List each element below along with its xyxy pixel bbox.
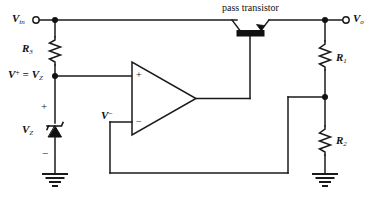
wire-transistor-collector [232, 20, 240, 31]
zener-plus-sign: + [41, 101, 47, 112]
circuit-diagram: Vin Vo R3 R1 R2 V+ = VZ VZ + − + − V− pa… [0, 0, 377, 202]
pass-transistor-label: pass transistor [222, 3, 279, 13]
node-dot-vin [52, 17, 58, 23]
pass-transistor-emitter-arrow [257, 25, 265, 31]
schematic-canvas [0, 0, 377, 202]
opamp-noninverting-sign: + [136, 70, 142, 80]
resistor-r3-label: R3 [22, 43, 33, 56]
node-dot-divider [322, 94, 328, 100]
resistor-r2-body [320, 126, 331, 155]
resistor-r1-label: R1 [336, 52, 347, 65]
input-terminal-circle [33, 17, 39, 23]
pass-transistor-base-bar [237, 31, 264, 37]
node-dot-vplus [52, 73, 58, 79]
resistor-r3-body [50, 37, 61, 65]
output-terminal-circle [343, 17, 349, 23]
zener-diode-triangle [49, 126, 62, 137]
opamp-inverting-sign: − [136, 117, 142, 127]
zener-minus-sign: − [42, 148, 48, 159]
input-terminal-label: Vin [12, 13, 25, 26]
zener-label: VZ [22, 124, 33, 137]
resistor-r2-label: R2 [336, 135, 347, 148]
resistor-r1-body [320, 41, 331, 70]
noninverting-node-label: V+ = VZ [8, 69, 43, 82]
output-terminal-label: Vo [353, 13, 364, 26]
node-dot-vo [322, 17, 328, 23]
inverting-input-label: V− [101, 110, 113, 121]
